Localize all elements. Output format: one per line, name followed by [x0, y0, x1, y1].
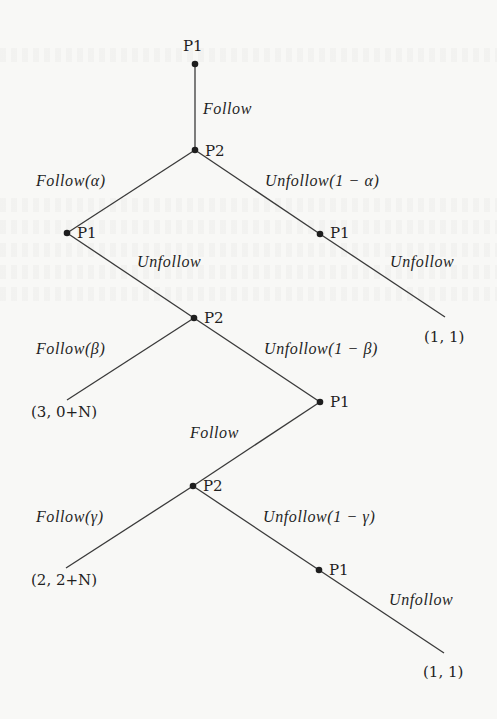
edge-low-unfollow: [319, 570, 444, 653]
node-dot-p1-left: [64, 230, 71, 237]
node-dot-root: [192, 61, 199, 68]
player-label-p1-low: P1: [329, 563, 349, 578]
action-label-mid-follow: Follow: [190, 425, 239, 441]
action-label-unfollow-gamma: Unfollow(1 − γ): [263, 509, 375, 525]
action-label-root-follow: Follow: [203, 101, 252, 117]
player-label-p2-mid: P2: [204, 311, 224, 326]
edge-right-unfollow: [320, 234, 445, 317]
edge-follow-beta: [67, 318, 194, 400]
edge-follow-alpha: [67, 150, 195, 233]
action-label-unfollow-beta: Unfollow(1 − β): [264, 341, 378, 357]
edge-unfollow-gamma: [193, 486, 319, 570]
action-label-follow-gamma: Follow(γ): [36, 509, 104, 525]
player-label-p1-right: P1: [330, 226, 350, 241]
node-dot-p1-low: [316, 567, 323, 574]
player-label-p1-mid: P1: [330, 395, 350, 410]
action-label-left-unfollow: Unfollow: [137, 254, 201, 270]
edge-unfollow-alpha: [195, 150, 320, 234]
player-label-p2-low: P2: [203, 479, 223, 494]
payoff-top-right: (1, 1): [424, 330, 464, 345]
game-tree-figure: P1 P2 P1 P1 P2 P1 P2 P1 Follow Follow(α)…: [0, 0, 497, 719]
edge-follow-gamma: [66, 486, 193, 568]
node-dot-p1-mid: [317, 399, 324, 406]
payoff-low-left: (2, 2+N): [31, 573, 97, 588]
payoff-mid-left: (3, 0+N): [31, 405, 97, 420]
player-label-p1-left: P1: [77, 226, 97, 241]
action-label-low-unfollow: Unfollow: [389, 592, 453, 608]
node-dot-p2-low: [190, 483, 197, 490]
edge-mid-follow: [193, 402, 320, 486]
edge-unfollow-beta: [194, 318, 320, 402]
player-label-p2-top: P2: [205, 144, 225, 159]
action-label-follow-alpha: Follow(α): [36, 173, 106, 189]
node-dot-p2-mid: [191, 315, 198, 322]
player-label-root: P1: [183, 39, 203, 54]
node-dot-p1-right: [317, 231, 324, 238]
edge-left-unfollow: [67, 233, 194, 318]
action-label-unfollow-alpha: Unfollow(1 − α): [265, 173, 379, 189]
node-dot-p2-top: [192, 147, 199, 154]
payoff-bottom-right: (1, 1): [423, 665, 463, 680]
action-label-right-unfollow: Unfollow: [390, 254, 454, 270]
action-label-follow-beta: Follow(β): [36, 341, 105, 357]
